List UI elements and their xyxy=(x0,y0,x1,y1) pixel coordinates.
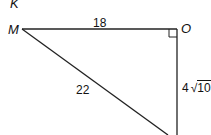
radicand: 10 xyxy=(197,80,210,95)
vertex-label-o: O xyxy=(181,22,191,35)
vertex-label-m: M xyxy=(8,23,19,36)
side-length-hypotenuse: 22 xyxy=(76,84,89,96)
vertex-label-k: K xyxy=(10,0,19,10)
side-hypotenuse xyxy=(22,29,168,135)
side-length-mo: 18 xyxy=(93,17,106,29)
radical-coefficient: 4 xyxy=(182,81,189,95)
right-angle-marker xyxy=(169,29,177,37)
side-length-vertical: 4√10 xyxy=(182,82,211,94)
